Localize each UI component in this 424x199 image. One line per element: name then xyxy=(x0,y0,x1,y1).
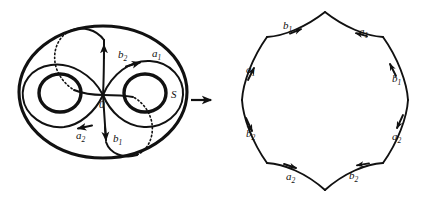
octagon-label-right-upper: b1 xyxy=(392,72,401,87)
svg-text:a1: a1 xyxy=(152,47,161,62)
surface-curve-label-a2: a2 xyxy=(76,129,86,144)
svg-text:b1: b1 xyxy=(283,19,292,34)
curve-b2-top-arc xyxy=(70,29,104,40)
surface-curve-label-a1: a1 xyxy=(152,47,161,62)
surface-hole-left xyxy=(39,74,81,112)
label-subscript: 2 xyxy=(292,176,296,185)
fundamental-octagon: b1 a1 a1 b1 b2 xyxy=(242,12,408,190)
genus-two-surface: 0 S b2 a1 a2 b1 xyxy=(19,26,187,158)
svg-text:a2: a2 xyxy=(286,170,296,185)
genus-two-surface-to-octagon-figure: 0 S b2 a1 a2 b1 xyxy=(0,0,424,199)
surface-curve-label-b1: b1 xyxy=(113,132,122,147)
label-subscript: 1 xyxy=(252,69,256,78)
curve-b1-arrowhead xyxy=(105,127,106,140)
octagon-edge-right-upper xyxy=(383,37,408,100)
label-subscript: 1 xyxy=(398,78,402,87)
svg-text:a1: a1 xyxy=(359,25,368,40)
basepoint-label: 0 xyxy=(99,98,105,110)
label-subscript: 1 xyxy=(158,53,162,62)
curve-b1-rejoin xyxy=(103,95,133,97)
octagon-edge-top-left xyxy=(267,12,325,37)
octagon-label-left-lower: b2 xyxy=(246,127,256,142)
label-subscript: 2 xyxy=(398,136,402,145)
label-subscript: 2 xyxy=(252,133,256,142)
surface-curve-label-b2: b2 xyxy=(118,48,128,63)
octagon-label-top-right: a1 xyxy=(359,25,368,40)
label-subscript: 2 xyxy=(355,175,359,184)
figure-container: 0 S b2 a1 a2 b1 xyxy=(0,0,424,199)
svg-text:b2: b2 xyxy=(118,48,128,63)
octagon-edge-top-right xyxy=(325,12,383,37)
curve-b2-rejoin xyxy=(74,90,103,95)
label-subscript: 1 xyxy=(119,138,123,147)
label-subscript: 1 xyxy=(289,25,293,34)
octagon-label-bottom-left: a2 xyxy=(286,170,296,185)
svg-text:b2: b2 xyxy=(349,169,359,184)
octagon-label-bottom-right: b2 xyxy=(349,169,359,184)
label-subscript: 2 xyxy=(82,135,86,144)
curve-b2-hidden xyxy=(55,31,74,90)
svg-text:b2: b2 xyxy=(246,127,256,142)
octagon-label-top-left: b1 xyxy=(283,19,292,34)
svg-text:b1: b1 xyxy=(392,72,401,87)
label-subscript: 1 xyxy=(365,31,369,40)
surface-name-label: S xyxy=(171,88,177,100)
label-subscript: 2 xyxy=(124,54,128,63)
svg-text:b1: b1 xyxy=(113,132,122,147)
svg-text:a2: a2 xyxy=(76,129,86,144)
